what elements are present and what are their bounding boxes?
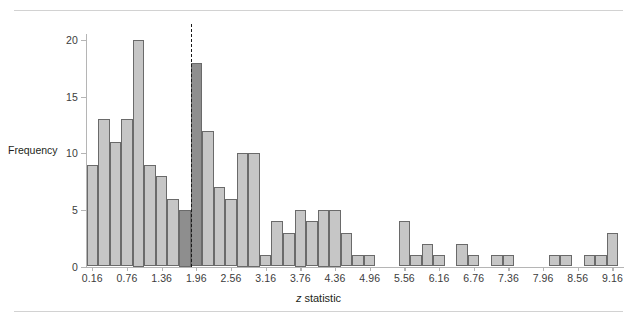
- histogram-bar: [456, 244, 468, 267]
- x-tick-mark: [196, 267, 197, 271]
- histogram-bar: [156, 176, 168, 267]
- histogram-bar: [399, 221, 411, 266]
- y-tick-label: 15: [54, 91, 78, 103]
- histogram-bar: [560, 255, 572, 266]
- y-tick-mark: [81, 210, 86, 211]
- histogram-bar: [491, 255, 503, 266]
- x-tick-mark: [92, 267, 93, 271]
- histogram-bar: [503, 255, 515, 266]
- histogram-bar: [468, 255, 480, 266]
- x-tick-mark: [162, 267, 163, 271]
- histogram-bar: [341, 233, 353, 267]
- histogram-bar: [283, 233, 295, 267]
- x-tick-mark: [508, 267, 509, 271]
- histogram-bar: [364, 255, 376, 266]
- y-tick-mark: [81, 267, 86, 268]
- x-tick-mark: [543, 267, 544, 271]
- x-tick-mark: [578, 267, 579, 271]
- histogram-bar: [595, 255, 607, 266]
- histogram-bar: [318, 210, 330, 267]
- y-tick-label-wrap: 0: [48, 261, 78, 273]
- histogram-bar: [271, 221, 283, 266]
- histogram-bar: [98, 119, 110, 266]
- histogram-bar: [329, 210, 341, 267]
- y-tick-mark: [81, 153, 86, 154]
- histogram-bar: [179, 210, 191, 267]
- histogram-bar: [549, 255, 561, 266]
- reference-line-1-96: [191, 24, 192, 267]
- y-tick-mark: [81, 40, 86, 41]
- histogram-bar: [248, 153, 260, 266]
- y-tick-label: 5: [54, 204, 78, 216]
- histogram-bar: [214, 187, 226, 266]
- histogram-bar: [225, 199, 237, 267]
- y-tick-label: 20: [54, 34, 78, 46]
- y-tick-label-wrap: 20: [48, 34, 78, 46]
- histogram-bar: [144, 165, 156, 267]
- histogram-bar: [607, 233, 619, 267]
- x-tick-mark: [300, 267, 301, 271]
- x-tick-label: 9.16: [592, 272, 632, 284]
- x-tick-mark: [370, 267, 371, 271]
- x-tick-mark: [612, 267, 613, 271]
- histogram-bar: [352, 255, 364, 266]
- histogram-bar: [167, 199, 179, 267]
- histogram-bar: [306, 221, 318, 266]
- x-tick-mark: [266, 267, 267, 271]
- histogram-bar: [121, 119, 133, 266]
- x-tick-mark: [439, 267, 440, 271]
- histogram-bar: [191, 63, 203, 267]
- histogram-bar: [133, 40, 145, 267]
- x-axis-title: z statistic: [0, 292, 637, 304]
- histogram-bar: [584, 255, 596, 266]
- histogram-bar: [295, 210, 307, 267]
- histogram-bar: [422, 244, 434, 267]
- y-tick-label: 0: [54, 261, 78, 273]
- x-tick-mark: [474, 267, 475, 271]
- histogram-bar: [237, 153, 249, 266]
- x-tick-mark: [404, 267, 405, 271]
- histogram-plot-area: 05101520 0.160.761.361.962.563.163.764.3…: [0, 0, 637, 323]
- figure-container: 05101520 0.160.761.361.962.563.163.764.3…: [0, 0, 637, 323]
- histogram-bar: [260, 255, 272, 266]
- histogram-bar: [110, 142, 122, 267]
- histogram-bar: [202, 131, 214, 267]
- histogram-bar: [433, 255, 445, 266]
- y-axis-title: Frequency: [8, 144, 58, 156]
- x-tick-mark: [231, 267, 232, 271]
- x-axis-title-rest: statistic: [301, 292, 341, 304]
- histogram-bar: [87, 165, 99, 267]
- x-tick-mark: [335, 267, 336, 271]
- histogram-bar: [410, 255, 422, 266]
- y-tick-label-wrap: 15: [48, 91, 78, 103]
- x-tick-mark: [127, 267, 128, 271]
- y-tick-mark: [81, 97, 86, 98]
- y-tick-label-wrap: 5: [48, 204, 78, 216]
